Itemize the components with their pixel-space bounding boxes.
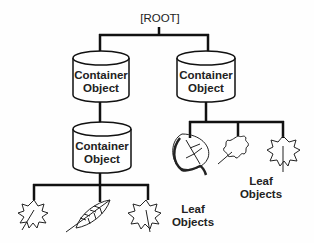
leaf-objects-label-right: Leaf Objects	[236, 175, 286, 201]
leaf-label-line1: Leaf	[236, 175, 286, 188]
leaf-label-line2: Objects	[236, 188, 286, 201]
container-lower-label: Container Object	[72, 140, 132, 166]
leaf-label-line2: Objects	[168, 216, 218, 229]
container-right-label: Container Object	[176, 69, 236, 95]
elm-leaf-icon	[66, 200, 110, 232]
leaf-objects-label-lower: Leaf Objects	[168, 203, 218, 229]
maple-leaf-icon	[267, 136, 300, 172]
maple-leaf-icon	[128, 200, 161, 232]
root-label: [ROOT]	[135, 12, 185, 25]
container-label-line2: Object	[176, 82, 236, 95]
diagram-lines	[0, 0, 314, 243]
container-left-label: Container Object	[71, 69, 131, 95]
container-label-line1: Container	[176, 69, 236, 82]
container-label-line1: Container	[72, 140, 132, 153]
maple-leaf-icon	[18, 200, 48, 230]
tree-diagram: [ROOT] Container Object Container Object…	[0, 0, 314, 243]
container-label-line2: Object	[71, 82, 131, 95]
leaf-label-line1: Leaf	[168, 203, 218, 216]
oak-leaf-icon	[218, 136, 248, 164]
aspen-leaf-icon	[173, 134, 209, 175]
container-label-line1: Container	[71, 69, 131, 82]
container-label-line2: Object	[72, 153, 132, 166]
